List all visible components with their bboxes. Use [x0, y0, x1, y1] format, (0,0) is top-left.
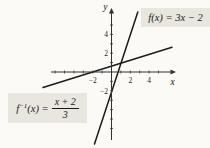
f-label-box: f(x) = 3x − 2 — [141, 8, 210, 27]
x-axis — [51, 69, 176, 74]
f-inverse-arg: (x) = — [27, 103, 48, 114]
y-tick-label-2: 2 — [104, 49, 108, 58]
y-axis-arrowhead-icon — [109, 8, 114, 14]
f-label-text: f(x) = 3x − 2 — [148, 12, 202, 23]
f-inverse-label-box: f−1(x) = x + 2 3 — [8, 93, 87, 123]
fraction-denominator: 3 — [63, 109, 68, 120]
x-tick-label-neg2: −2 — [89, 76, 97, 85]
y-tick-label-4: 4 — [104, 30, 108, 39]
fraction: x + 2 3 — [52, 96, 79, 120]
x-tick-label-2: 2 — [128, 76, 132, 85]
x-axis-arrowhead-icon — [171, 69, 177, 74]
f-inverse-prefix: f−1(x) = — [16, 103, 49, 114]
x-tick-label-4: 4 — [147, 76, 151, 85]
y-axis — [109, 8, 114, 140]
function-inverse-graph-figure: −2 2 4 4 2 −2 x y f(x) = 3x − 2 f−1(x) =… — [0, 0, 210, 148]
y-axis-label: y — [102, 2, 108, 12]
y-tick-label-neg2: −2 — [100, 87, 108, 96]
x-axis-label: x — [169, 77, 175, 87]
fraction-numerator: x + 2 — [52, 96, 79, 109]
